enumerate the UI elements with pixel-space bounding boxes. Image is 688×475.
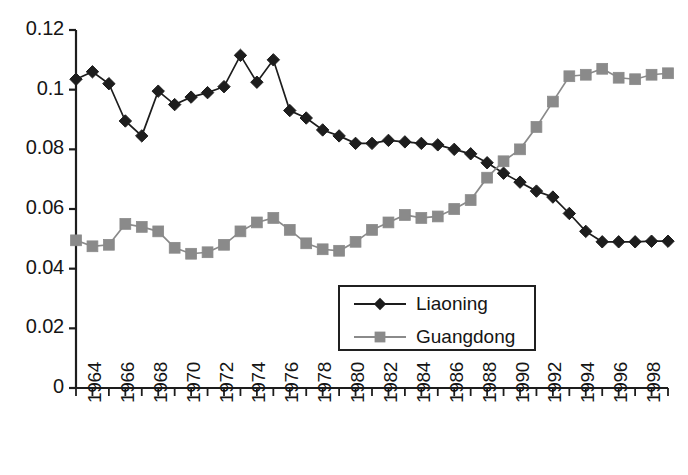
legend-square-icon	[375, 331, 386, 342]
data-point-marker	[153, 226, 164, 237]
data-point-marker	[87, 241, 98, 252]
data-point-marker	[630, 74, 641, 85]
data-point-marker	[498, 156, 509, 167]
y-axis-tick-label: 0	[53, 375, 64, 398]
x-axis-tick-label: 1990	[512, 362, 534, 403]
data-point-marker	[120, 219, 131, 230]
data-point-marker	[612, 236, 624, 248]
data-point-marker	[597, 63, 608, 74]
x-axis-tick-label: 1970	[183, 362, 205, 403]
data-point-marker	[547, 96, 558, 107]
data-point-marker	[202, 247, 213, 258]
data-point-marker	[316, 124, 328, 136]
data-point-marker	[432, 139, 444, 151]
data-point-marker	[564, 71, 575, 82]
data-point-marker	[218, 80, 230, 92]
data-point-marker	[70, 73, 82, 85]
data-point-marker	[662, 235, 674, 247]
x-axis-tick-label: 1988	[479, 362, 501, 403]
data-point-marker	[284, 104, 296, 116]
data-point-marker	[481, 157, 493, 169]
data-point-marker	[515, 144, 526, 155]
x-axis-tick-label: 1996	[610, 362, 632, 403]
data-point-marker	[596, 236, 608, 248]
x-axis-tick-label: 1964	[84, 362, 106, 403]
y-axis-tick-label: 0.08	[26, 136, 64, 159]
data-point-marker	[267, 54, 279, 66]
y-axis-tick-label: 0.02	[26, 315, 64, 338]
data-point-marker	[432, 211, 443, 222]
data-point-marker	[663, 68, 674, 79]
data-point-marker	[234, 49, 246, 61]
x-axis-tick-label: 1986	[446, 362, 468, 403]
data-point-marker	[497, 167, 509, 179]
data-point-marker	[317, 244, 328, 255]
data-point-marker	[186, 248, 197, 259]
data-point-marker	[366, 137, 378, 149]
data-point-marker	[103, 78, 115, 90]
data-point-marker	[448, 143, 460, 155]
data-point-marker	[349, 137, 361, 149]
x-axis-tick-label: 1968	[150, 362, 172, 403]
data-point-marker	[333, 130, 345, 142]
data-point-marker	[464, 148, 476, 160]
x-axis-tick-label: 1982	[380, 362, 402, 403]
data-point-marker	[531, 122, 542, 133]
x-axis-tick-label: 1998	[643, 362, 665, 403]
data-point-marker	[86, 66, 98, 78]
data-point-marker	[465, 195, 476, 206]
legend-marker-diamond-icon	[352, 292, 408, 316]
legend-label: Guangdong	[416, 326, 515, 348]
x-axis-tick-label: 1966	[117, 362, 139, 403]
data-point-marker	[367, 224, 378, 235]
data-point-marker	[219, 239, 230, 250]
data-point-marker	[136, 222, 147, 233]
data-point-marker	[334, 245, 345, 256]
data-point-marker	[169, 242, 180, 253]
data-point-marker	[71, 235, 82, 246]
x-axis-tick-label: 1974	[248, 362, 270, 403]
data-point-marker	[201, 86, 213, 98]
data-point-marker	[646, 69, 657, 80]
y-axis-tick-label: 0.1	[37, 77, 64, 100]
x-axis-tick-label: 1984	[413, 362, 435, 403]
data-point-marker	[300, 112, 312, 124]
data-point-marker	[251, 76, 263, 88]
chart-legend: LiaoningGuangdong	[338, 285, 536, 351]
data-point-marker	[235, 226, 246, 237]
legend-diamond-icon	[374, 297, 386, 309]
data-point-marker	[629, 236, 641, 248]
data-point-marker	[268, 213, 279, 224]
x-axis-tick-label: 1976	[281, 362, 303, 403]
legend-item-liaoning: Liaoning	[340, 287, 534, 320]
y-axis-tick-label: 0.06	[26, 196, 64, 219]
data-point-marker	[514, 176, 526, 188]
data-point-marker	[399, 136, 411, 148]
data-point-marker	[383, 217, 394, 228]
x-axis-tick-label: 1980	[347, 362, 369, 403]
x-axis-tick-label: 1994	[577, 362, 599, 403]
x-axis-tick-label: 1978	[314, 362, 336, 403]
y-axis-tick-label: 0.12	[26, 17, 64, 40]
data-point-marker	[482, 172, 493, 183]
chart-container: 00.020.040.060.080.10.12 196419661968197…	[0, 0, 688, 475]
data-point-marker	[284, 224, 295, 235]
data-point-marker	[185, 91, 197, 103]
data-point-marker	[449, 204, 460, 215]
legend-marker-square-icon	[352, 325, 408, 349]
data-point-marker	[399, 210, 410, 221]
legend-label: Liaoning	[416, 293, 488, 315]
data-point-marker	[645, 235, 657, 247]
data-point-marker	[530, 185, 542, 197]
line-chart-plot	[0, 0, 688, 475]
x-axis-tick-label: 1992	[544, 362, 566, 403]
data-point-marker	[103, 239, 114, 250]
data-point-marker	[613, 72, 624, 83]
data-point-marker	[580, 69, 591, 80]
data-point-marker	[382, 134, 394, 146]
x-axis-tick-label: 1972	[216, 362, 238, 403]
legend-item-guangdong: Guangdong	[340, 320, 534, 353]
data-point-marker	[415, 137, 427, 149]
data-point-marker	[301, 238, 312, 249]
data-point-marker	[251, 217, 262, 228]
